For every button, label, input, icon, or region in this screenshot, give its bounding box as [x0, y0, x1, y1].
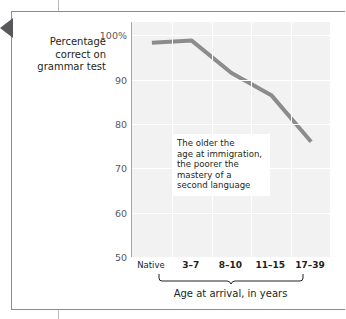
- y-axis-tick-label: 60: [87, 207, 127, 218]
- annotation-line: mastery of a: [177, 170, 265, 181]
- gridline-horizontal: [132, 35, 330, 36]
- y-axis-tick-label: 100%: [87, 30, 127, 41]
- gridline-horizontal: [132, 80, 330, 81]
- gridline-horizontal: [132, 124, 330, 125]
- left-triangle-pointer-icon: [0, 18, 13, 38]
- x-axis-tick-labels: Native3–78–1011–1517–39: [131, 260, 330, 274]
- x-axis-title: Age at arrival, in years: [131, 288, 330, 299]
- x-axis-tick-label: 17–39: [286, 260, 334, 270]
- y-axis-tick-label: 80: [87, 118, 127, 129]
- age-range-bracket-icon: [158, 274, 304, 285]
- annotation-line: age at immigration,: [177, 149, 265, 160]
- figure-page: Percentage correct on grammar test 100%9…: [0, 0, 346, 319]
- gridline-horizontal: [132, 213, 330, 214]
- series-line: [152, 41, 311, 142]
- y-axis-tick-labels: 100%9080706050: [85, 22, 127, 257]
- gridline-vertical: [291, 22, 292, 257]
- y-axis-tick-label: 90: [87, 74, 127, 85]
- annotation-line: The older the: [177, 138, 265, 149]
- annotation-line: second language: [177, 180, 265, 191]
- gridline-horizontal: [132, 257, 330, 258]
- y-axis-tick-label: 50: [87, 252, 127, 263]
- trend-callout-annotation: The older theage at immigration,the poor…: [172, 134, 270, 196]
- y-axis-tick-label: 70: [87, 163, 127, 174]
- annotation-line: the poorer the: [177, 159, 265, 170]
